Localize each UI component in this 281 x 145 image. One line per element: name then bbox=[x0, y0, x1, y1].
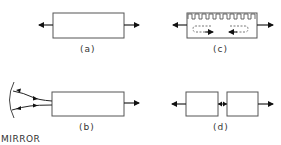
arrowhead bbox=[33, 96, 38, 101]
gain-box bbox=[52, 92, 124, 116]
beam-upper bbox=[13, 91, 52, 101]
arrowhead bbox=[16, 106, 21, 110]
gain-box-right bbox=[227, 92, 258, 116]
coupling-arrowhead bbox=[223, 102, 227, 107]
grating-box bbox=[187, 13, 257, 38]
gain-box bbox=[53, 13, 124, 38]
laser-configurations-diagram bbox=[0, 0, 281, 145]
panel-a bbox=[39, 13, 139, 38]
panel-b bbox=[10, 82, 140, 118]
gain-box-left bbox=[186, 92, 218, 116]
panel-c bbox=[173, 13, 273, 38]
panel-c-label: (c) bbox=[213, 44, 228, 54]
mirror-arc bbox=[10, 82, 15, 118]
arrowhead bbox=[33, 104, 38, 108]
coupling-arrowhead bbox=[218, 102, 222, 107]
panel-a-label: (a) bbox=[80, 44, 96, 54]
panel-b-label: (b) bbox=[79, 122, 95, 132]
mirror-label: MIRROR bbox=[1, 134, 40, 144]
panel-d bbox=[172, 92, 273, 116]
panel-d-label: (d) bbox=[213, 122, 229, 132]
